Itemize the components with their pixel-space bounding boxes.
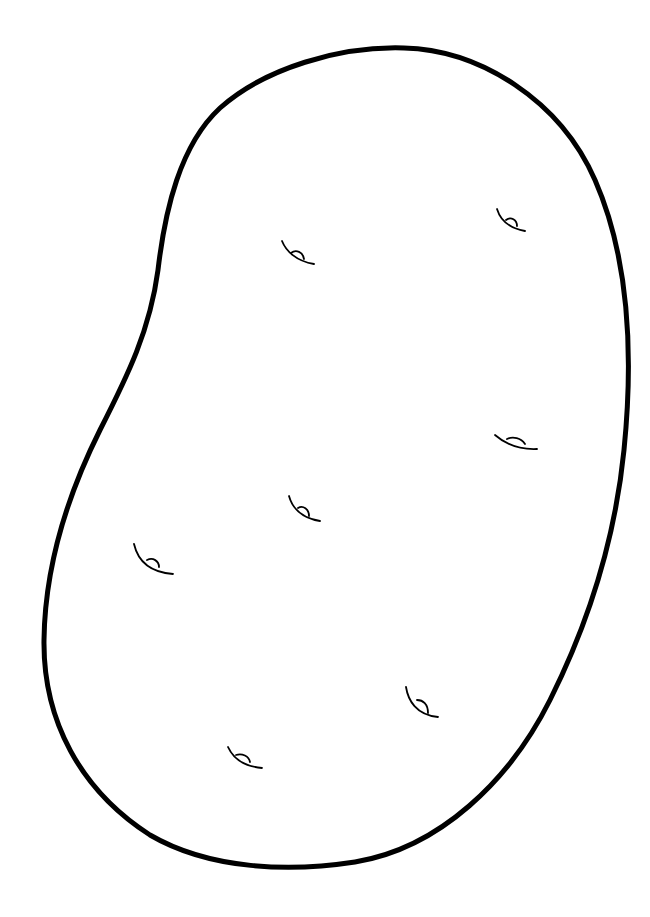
potato-illustration	[0, 0, 650, 917]
potato-drawing-canvas	[0, 0, 650, 917]
